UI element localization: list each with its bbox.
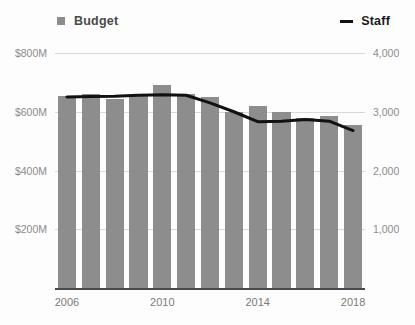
y-axis-left-tick: $200M bbox=[15, 223, 47, 235]
chart-legend: Budget Staff bbox=[0, 14, 415, 38]
legend-item-budget: Budget bbox=[57, 14, 118, 28]
y-axis-left-tick: $800M bbox=[15, 47, 47, 59]
plot-area: $200M$400M$600M$800M 1,0002,0003,0004,00… bbox=[55, 53, 365, 288]
y-axis-left-tick: $600M bbox=[15, 106, 47, 118]
line-series-staff bbox=[55, 53, 365, 288]
x-axis-tick: 2018 bbox=[341, 296, 365, 308]
legend-label-budget: Budget bbox=[74, 14, 118, 28]
legend-item-staff: Staff bbox=[340, 14, 390, 28]
line-swatch-icon bbox=[340, 20, 353, 23]
axis-baseline bbox=[55, 288, 365, 290]
y-axis-left-tick: $400M bbox=[15, 165, 47, 177]
chart-container: Budget Staff $200M$400M$600M$800M 1,0002… bbox=[0, 0, 415, 325]
y-axis-right-tick: 1,000 bbox=[373, 223, 399, 235]
y-axis-right-tick: 3,000 bbox=[373, 106, 399, 118]
x-axis-tick: 2006 bbox=[55, 296, 79, 308]
y-axis-right-tick: 2,000 bbox=[373, 165, 399, 177]
x-axis-tick: 2010 bbox=[150, 296, 174, 308]
staff-line-path bbox=[67, 95, 353, 131]
x-axis: 2006201020142018 bbox=[55, 296, 365, 316]
square-swatch-icon bbox=[57, 17, 65, 25]
legend-label-staff: Staff bbox=[361, 14, 390, 28]
y-axis-right-tick: 4,000 bbox=[373, 47, 399, 59]
x-axis-tick: 2014 bbox=[245, 296, 269, 308]
